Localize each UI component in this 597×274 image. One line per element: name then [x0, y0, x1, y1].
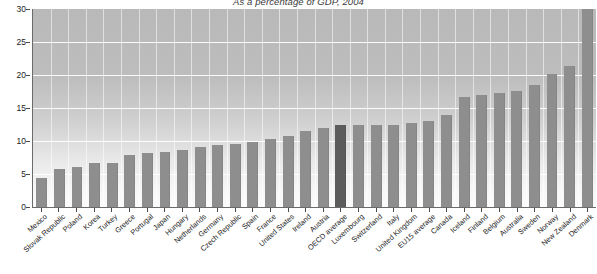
x-axis-tick-mark: [323, 208, 324, 212]
y-axis-tick-mark: [26, 9, 30, 10]
x-tick-slot: [349, 208, 367, 212]
bar-slot: [156, 9, 174, 207]
bar-slot: [508, 9, 526, 207]
y-axis-tick-label: 10: [17, 136, 26, 146]
x-axis-tick-mark: [305, 208, 306, 212]
bar-slot: [455, 9, 473, 207]
bar: [54, 169, 65, 207]
x-tick-slot: [173, 208, 191, 212]
bar-slot: [121, 9, 139, 207]
bar-slot: [315, 9, 333, 207]
x-axis-labels: MexicoSlovak RepublicPolandKoreaTurkeyGr…: [32, 212, 596, 274]
bar: [247, 142, 258, 207]
x-axis-tick-mark: [570, 208, 571, 212]
x-tick-slot: [50, 208, 68, 212]
bar: [283, 136, 294, 207]
x-tick-slot: [578, 208, 596, 212]
bar: [353, 125, 364, 207]
bar: [160, 152, 171, 207]
x-tick-slot: [367, 208, 385, 212]
x-tick-slot: [155, 208, 173, 212]
x-axis-tick-mark: [376, 208, 377, 212]
x-tick-slot: [208, 208, 226, 212]
chart-title: As a percentage of GDP, 2004: [0, 0, 597, 7]
bar-slot: [279, 9, 297, 207]
bar: [423, 121, 434, 207]
bar-slot: [490, 9, 508, 207]
x-tick-slot: [138, 208, 156, 212]
x-axis-tick-mark: [446, 208, 447, 212]
bar-slot: [385, 9, 403, 207]
x-axis-tick-mark: [481, 208, 482, 212]
x-axis-tick-mark: [517, 208, 518, 212]
bar: [459, 97, 470, 207]
x-axis-tick-mark: [235, 208, 236, 212]
bar: [406, 123, 417, 207]
x-tick-slot: [332, 208, 350, 212]
bar: [72, 167, 83, 207]
x-axis-tick-mark: [199, 208, 200, 212]
x-tick-slot: [402, 208, 420, 212]
y-axis-tick-mark: [26, 174, 30, 175]
y-axis-tick-mark: [26, 141, 30, 142]
x-axis-tick-mark: [552, 208, 553, 212]
y-axis-tick-label: 25: [17, 37, 26, 47]
x-tick-slot: [508, 208, 526, 212]
x-axis-tick-mark: [358, 208, 359, 212]
plot-area: [32, 9, 596, 207]
bar: [582, 9, 593, 207]
x-axis-tick-mark: [252, 208, 253, 212]
bar: [124, 155, 135, 207]
x-axis-tick-mark: [164, 208, 165, 212]
bar: [476, 95, 487, 207]
x-axis-tick-mark: [94, 208, 95, 212]
x-axis-ticks: [32, 208, 596, 212]
bar-slot: [297, 9, 315, 207]
bar: [300, 131, 311, 207]
bar: [564, 66, 575, 207]
bar-slot: [86, 9, 104, 207]
bar-slot: [438, 9, 456, 207]
x-tick-slot: [32, 208, 50, 212]
x-tick-slot: [226, 208, 244, 212]
bar: [89, 163, 100, 207]
x-axis-tick-mark: [288, 208, 289, 212]
bar-slot: [33, 9, 51, 207]
x-tick-slot: [296, 208, 314, 212]
bar-slot: [262, 9, 280, 207]
x-axis-tick-mark: [499, 208, 500, 212]
x-tick-slot: [279, 208, 297, 212]
bar-slot: [332, 9, 350, 207]
x-axis-tick-mark: [411, 208, 412, 212]
bar-series: [33, 9, 596, 207]
bar-slot: [244, 9, 262, 207]
bar: [335, 125, 346, 207]
x-tick-slot: [120, 208, 138, 212]
bar-slot: [209, 9, 227, 207]
bar: [230, 144, 241, 207]
x-tick-slot: [191, 208, 209, 212]
bar-slot: [526, 9, 544, 207]
bar-slot: [174, 9, 192, 207]
bar: [142, 153, 153, 207]
bar-slot: [420, 9, 438, 207]
y-axis-tick-label: 20: [17, 70, 26, 80]
bar: [511, 91, 522, 207]
bar: [195, 147, 206, 207]
bar: [371, 125, 382, 208]
x-tick-slot: [85, 208, 103, 212]
y-axis-tick-mark: [26, 42, 30, 43]
bar: [494, 93, 505, 207]
bar-slot: [227, 9, 245, 207]
bar-slot: [350, 9, 368, 207]
bar: [177, 150, 188, 207]
x-axis-tick-mark: [41, 208, 42, 212]
x-tick-slot: [314, 208, 332, 212]
bar-slot: [473, 9, 491, 207]
x-axis-tick-mark: [182, 208, 183, 212]
x-tick-slot: [526, 208, 544, 212]
x-axis-tick-mark: [464, 208, 465, 212]
x-axis-tick-mark: [147, 208, 148, 212]
bar-slot: [103, 9, 121, 207]
y-axis-tick-mark: [26, 207, 30, 208]
